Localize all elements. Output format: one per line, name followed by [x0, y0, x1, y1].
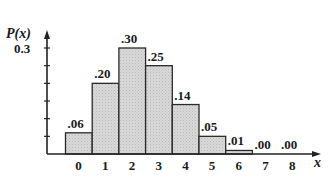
value-label-7: .00 — [254, 138, 270, 151]
x-tick-label-1: 1 — [102, 159, 109, 172]
x-tick-label-6: 6 — [236, 159, 243, 172]
bars-group — [66, 48, 253, 154]
bar-5 — [199, 136, 226, 154]
x-tick-label-4: 4 — [182, 159, 189, 172]
value-label-2: .30 — [121, 32, 137, 45]
x-tick-label-5: 5 — [209, 159, 216, 172]
bar-4 — [172, 105, 199, 154]
bar-1 — [92, 83, 119, 154]
value-label-6: .01 — [228, 134, 244, 147]
bar-3 — [146, 66, 173, 154]
bar-0 — [66, 133, 93, 154]
x-tick-label-0: 0 — [75, 159, 82, 172]
value-label-4: .14 — [174, 89, 190, 102]
value-label-8: .00 — [281, 138, 297, 151]
value-label-5: .05 — [201, 120, 217, 133]
x-tick-label-8: 8 — [289, 159, 296, 172]
value-label-0: .06 — [68, 117, 84, 130]
bar-2 — [119, 48, 146, 154]
x-axis-label: x — [314, 156, 321, 170]
x-tick-label-2: 2 — [129, 159, 136, 172]
y-axis-label: P(x) — [6, 27, 31, 41]
value-label-3: .25 — [148, 50, 164, 63]
y-axis-arrow-icon — [44, 30, 50, 39]
x-tick-label-7: 7 — [262, 159, 269, 172]
x-tick-label-3: 3 — [155, 159, 162, 172]
y-tick-label-0-3: 0.3 — [14, 42, 30, 55]
y-axis-label-text: P(x) — [6, 26, 31, 41]
value-label-1: .20 — [94, 67, 110, 80]
